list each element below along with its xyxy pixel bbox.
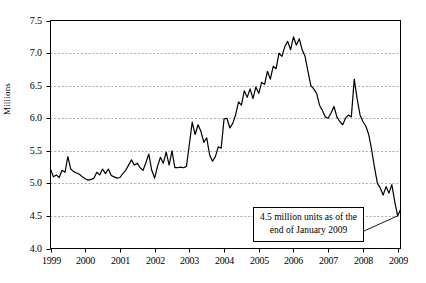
y-tick-label: 4.0 xyxy=(12,243,42,254)
y-tick-label: 6.5 xyxy=(12,80,42,91)
x-tick-label: 2001 xyxy=(101,255,141,266)
y-tick-label: 4.5 xyxy=(12,210,42,221)
y-tick-label: 5.0 xyxy=(12,177,42,188)
x-tick-label: 2007 xyxy=(309,255,349,266)
x-tick-label: 2000 xyxy=(66,255,106,266)
x-tick-label: 2006 xyxy=(274,255,314,266)
y-tick-label: 5.5 xyxy=(12,145,42,156)
x-tick-label: 2003 xyxy=(170,255,210,266)
annotation-leader-line xyxy=(364,216,398,231)
data-line-series-0 xyxy=(51,37,401,216)
x-tick-label: 2004 xyxy=(205,255,245,266)
y-tick-label: 7.5 xyxy=(12,15,42,26)
annotation-callout: 4.5 million units as of the end of Janua… xyxy=(253,207,364,242)
x-tick-label: 2009 xyxy=(379,255,419,266)
annotation-line-1: 4.5 million units as of the xyxy=(259,211,358,224)
y-tickmarks-group xyxy=(47,22,51,250)
x-tick-label: 2008 xyxy=(344,255,384,266)
gridlines-group xyxy=(51,54,401,217)
y-tick-label: 6.0 xyxy=(12,112,42,123)
y-tick-label: 7.0 xyxy=(12,47,42,58)
chart-figure: Millions 7.57.06.56.05.55.04.54.0 199920… xyxy=(0,0,426,283)
annotation-line-2: end of January 2009 xyxy=(259,224,358,237)
x-tickmarks-group xyxy=(52,249,399,253)
